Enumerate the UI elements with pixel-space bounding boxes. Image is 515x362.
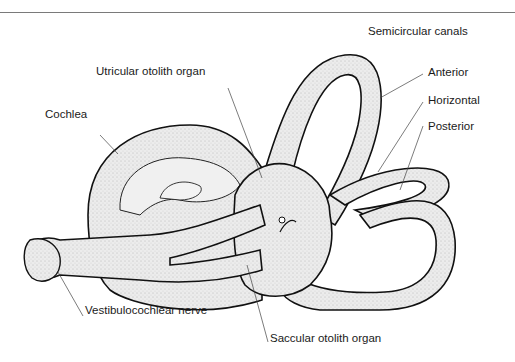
label-utricular-otolith-organ: Utricular otolith organ [96,66,205,78]
label-posterior: Posterior [428,121,474,133]
label-cochlea: Cochlea [45,109,87,121]
label-saccular-otolith-organ: Saccular otolith organ [270,333,381,345]
inner-ear-illustration [0,0,515,362]
label-semicircular-canals: Semicircular canals [368,26,468,38]
label-vestibulocochlear-nerve: Vestibulocochlear nerve [85,305,207,317]
label-horizontal: Horizontal [428,95,480,107]
label-anterior: Anterior [428,67,468,79]
